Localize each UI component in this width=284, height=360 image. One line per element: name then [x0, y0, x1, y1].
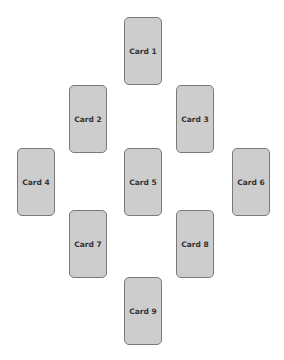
card-label: Card 5 [129, 178, 156, 187]
card-1[interactable]: Card 1 [124, 17, 162, 85]
card-label: Card 7 [74, 240, 101, 249]
card-label: Card 8 [181, 240, 208, 249]
card-5[interactable]: Card 5 [124, 148, 162, 216]
card-9[interactable]: Card 9 [124, 277, 162, 345]
card-2[interactable]: Card 2 [69, 85, 107, 153]
card-3[interactable]: Card 3 [176, 85, 214, 153]
card-label: Card 1 [129, 47, 156, 56]
card-6[interactable]: Card 6 [232, 148, 270, 216]
card-label: Card 3 [181, 115, 208, 124]
card-7[interactable]: Card 7 [69, 210, 107, 278]
card-8[interactable]: Card 8 [176, 210, 214, 278]
card-4[interactable]: Card 4 [17, 148, 55, 216]
card-label: Card 4 [22, 178, 49, 187]
card-label: Card 9 [129, 307, 156, 316]
card-label: Card 2 [74, 115, 101, 124]
card-label: Card 6 [237, 178, 264, 187]
